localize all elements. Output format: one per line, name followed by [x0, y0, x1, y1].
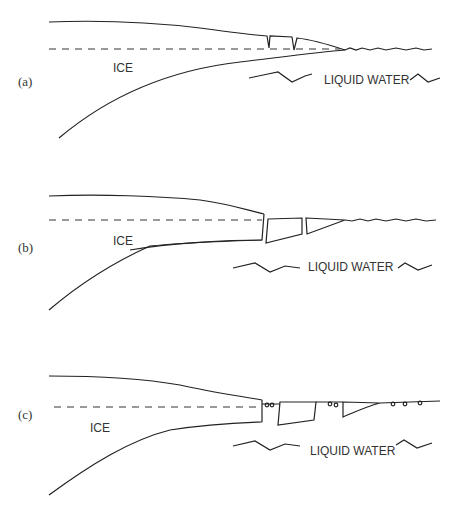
water-wave-right: [410, 74, 440, 82]
panel-label: (a): [18, 74, 32, 89]
panel-c: (c) ICE LIQUID WATER: [18, 376, 440, 495]
ice-bottom-surface: [49, 240, 262, 310]
water-wave-left: [233, 263, 300, 272]
water-wave-right: [398, 263, 432, 270]
water-label: LIQUID WATER: [324, 73, 410, 87]
ice-label: ICE: [113, 61, 133, 75]
water-surface-ripple: [345, 219, 436, 221]
water-wave-left: [233, 441, 300, 450]
ice-label: ICE: [90, 421, 110, 435]
water-label: LIQUID WATER: [310, 444, 396, 458]
ice-bottom-surface: [49, 422, 262, 495]
water-wave-right: [396, 440, 432, 448]
panel-label: (c): [18, 407, 32, 422]
water-surface-ripple: [345, 48, 432, 50]
floe-2: [343, 402, 380, 417]
ice-bottom-surface: [59, 50, 345, 138]
ice-label: ICE: [113, 234, 133, 248]
floe-1: [278, 402, 316, 425]
ice-top-surface: [49, 376, 262, 400]
ice-shelf-diagram: (a) ICE LIQUID WATER (b) ICE LIQUID WATE…: [0, 0, 460, 505]
panel-b: (b) ICE LIQUID WATER: [18, 195, 436, 310]
ice-front: [130, 214, 264, 250]
water-wave-left: [249, 72, 312, 82]
floe-2: [306, 218, 345, 234]
panel-a: (a) ICE LIQUID WATER: [18, 21, 440, 138]
ice-top-surface: [49, 195, 264, 214]
ice-top-surface: [49, 21, 345, 50]
floe-1: [266, 218, 302, 243]
water-label: LIQUID WATER: [308, 260, 394, 274]
panel-label: (b): [18, 240, 33, 255]
